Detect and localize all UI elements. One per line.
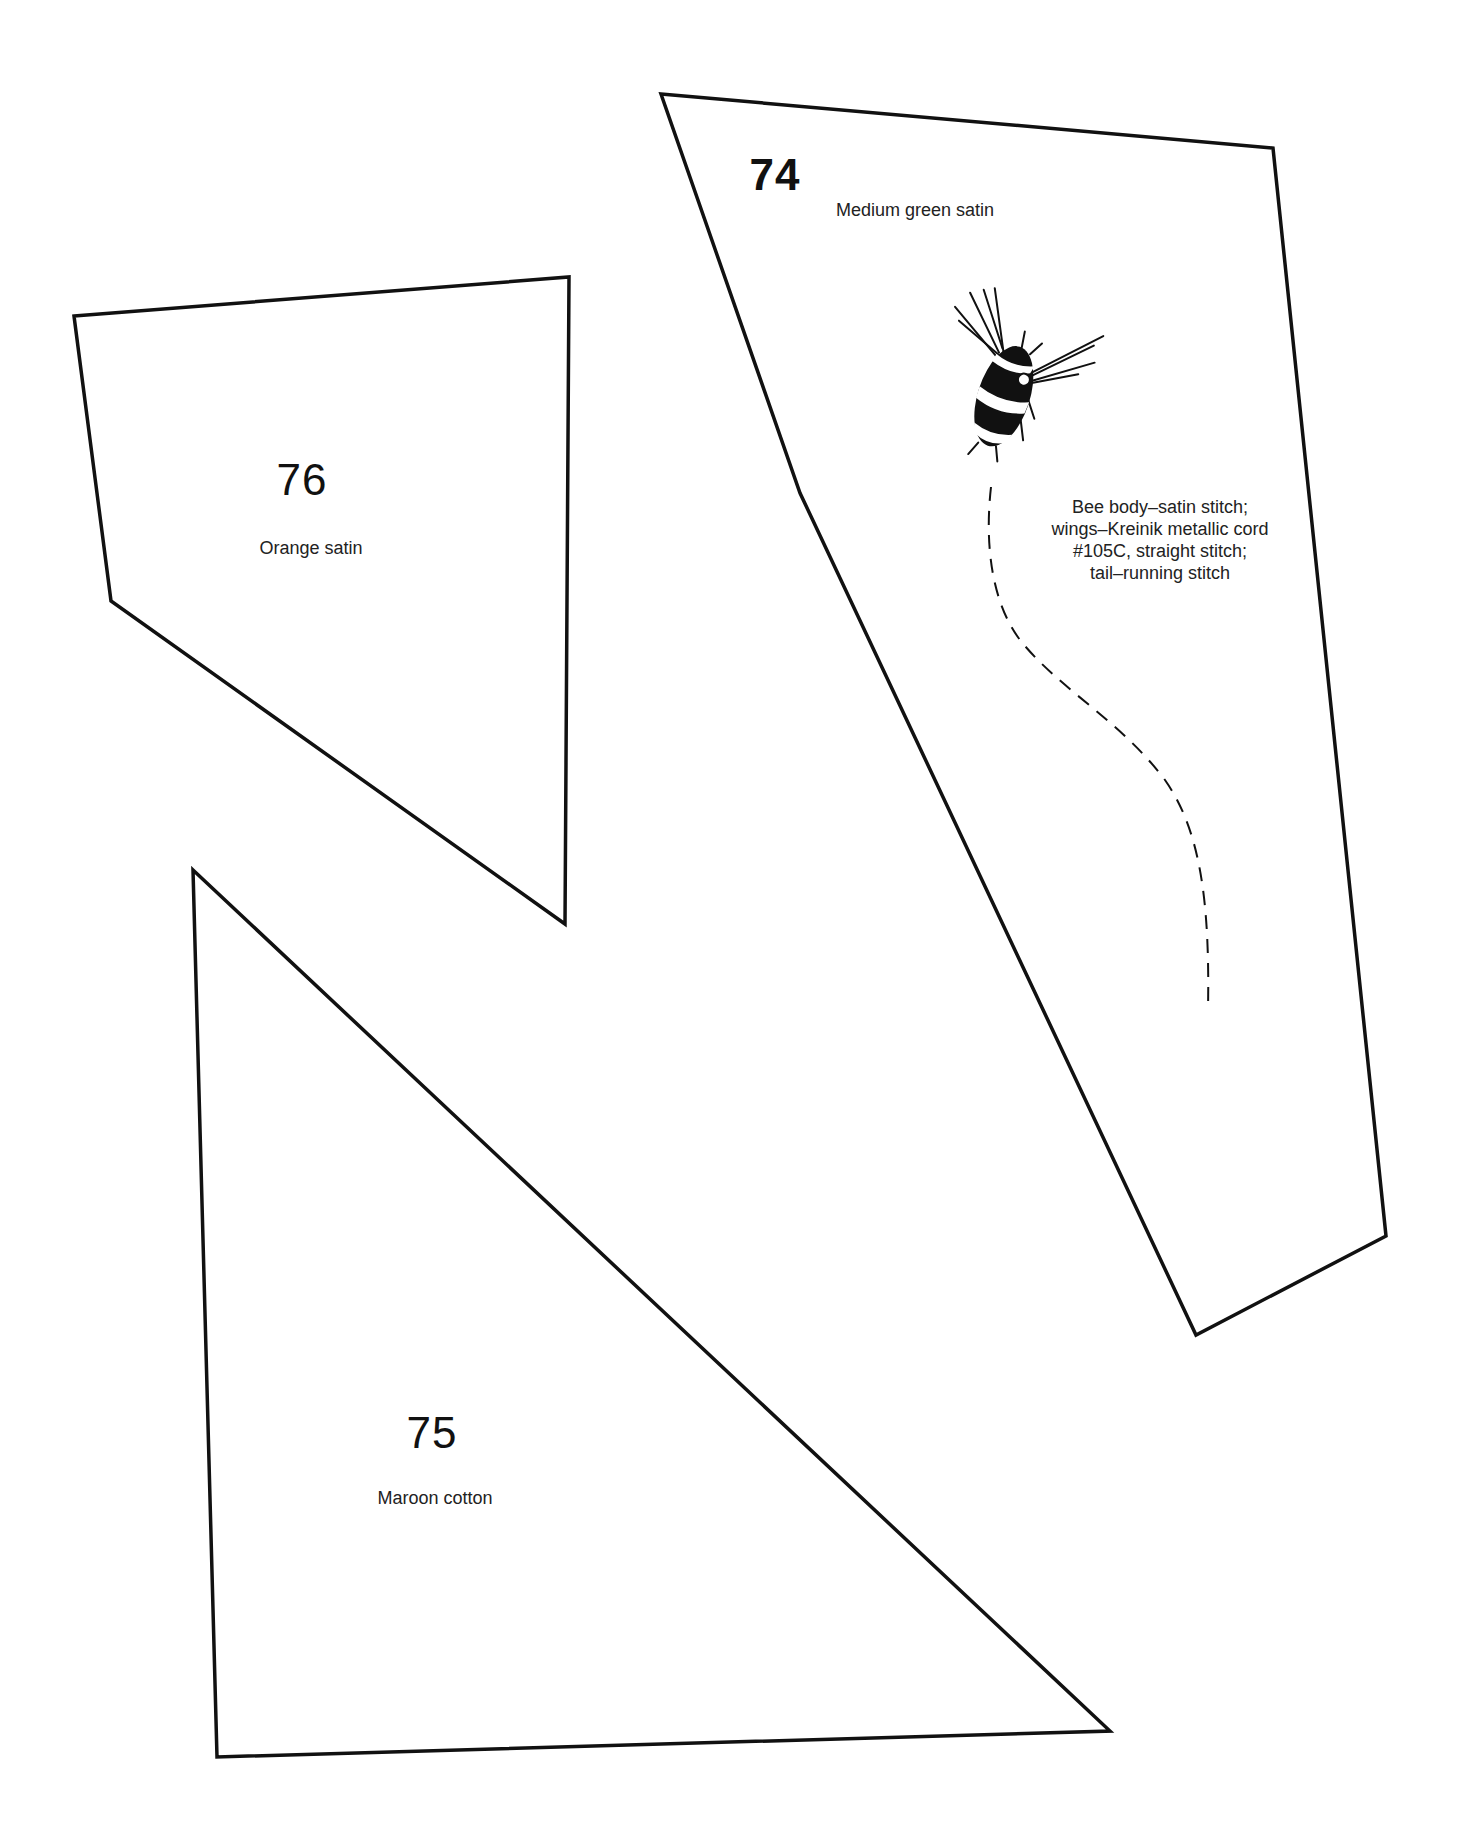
bee-note-line: tail–running stitch	[1051, 562, 1268, 584]
piece-fabric-label-75: Maroon cotton	[377, 1488, 492, 1509]
bee-icon	[913, 278, 1107, 482]
pattern-piece-75-outline	[193, 870, 1110, 1757]
bee-stitch-instructions: Bee body–satin stitch; wings–Kreinik met…	[1051, 496, 1268, 584]
piece-fabric-label-74: Medium green satin	[836, 200, 994, 221]
pattern-piece-74-outline	[661, 94, 1386, 1335]
bee-note-line: Bee body–satin stitch;	[1051, 496, 1268, 518]
bee-note-line: #105C, straight stitch;	[1051, 540, 1268, 562]
piece-number-74: 74	[750, 150, 801, 200]
piece-number-76: 76	[277, 455, 328, 505]
piece-number-75: 75	[407, 1408, 458, 1458]
bee-note-line: wings–Kreinik metallic cord	[1051, 518, 1268, 540]
pattern-piece-76-outline	[74, 277, 569, 924]
piece-fabric-label-76: Orange satin	[259, 538, 362, 559]
pattern-canvas	[0, 0, 1477, 1825]
